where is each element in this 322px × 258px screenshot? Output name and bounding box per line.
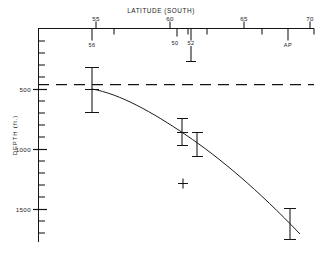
chart-figure: LATITUDE (SOUTH) 55 60 65 70 56 50 52 AP… [0, 0, 322, 258]
y-tick-label: 1500 [16, 206, 32, 213]
x-tick-label: 70 [306, 15, 314, 22]
x-tick-label: 60 [166, 15, 174, 22]
x-tick-label: 55 [92, 15, 100, 22]
station-label-56: 56 [88, 42, 95, 48]
station-label-ap: AP [284, 42, 292, 48]
latitude-depth-plot: LATITUDE (SOUTH) 55 60 65 70 56 50 52 AP… [0, 0, 322, 258]
x-tick-label: 65 [240, 15, 248, 22]
x-axis-title: LATITUDE (SOUTH) [127, 7, 195, 15]
station-label-52: 52 [187, 40, 194, 46]
plot-background [0, 0, 322, 258]
y-tick-label: 500 [19, 86, 31, 93]
y-axis-title: DEPTH (ft.) [12, 115, 18, 155]
station-label-50: 50 [171, 40, 178, 46]
